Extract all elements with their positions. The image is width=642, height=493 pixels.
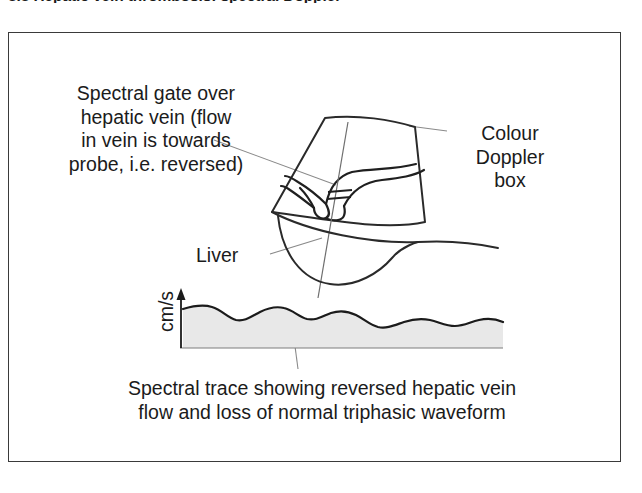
figure-title: 3.3 Hepatic vein thrombosis: spectral Do… bbox=[8, 0, 628, 3]
label-colour-doppler-box: Colour Doppler box bbox=[450, 122, 570, 193]
label-spectral-gate: Spectral gate over hepatic vein (flow in… bbox=[52, 82, 260, 176]
figure-caption: Spectral trace showing reversed hepatic … bbox=[72, 376, 572, 424]
label-velocity-axis: cm/s bbox=[155, 282, 178, 342]
label-liver: Liver bbox=[196, 244, 266, 268]
